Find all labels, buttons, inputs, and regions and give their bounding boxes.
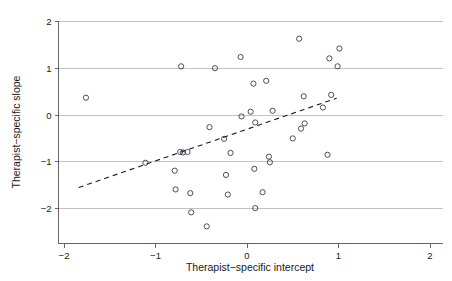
data-point xyxy=(266,154,271,159)
data-point xyxy=(267,160,272,165)
data-point xyxy=(253,206,258,211)
gridlines-group xyxy=(59,21,444,208)
data-point xyxy=(83,95,88,100)
y-tick-label--2: −2 xyxy=(41,203,52,214)
data-point xyxy=(223,172,228,177)
y-tick-label-2: 2 xyxy=(46,16,51,27)
y-tick-label--1: −1 xyxy=(41,156,52,167)
axes-group xyxy=(59,21,444,244)
data-point xyxy=(204,224,209,229)
regression-fit-line xyxy=(79,98,337,187)
data-point xyxy=(251,81,256,86)
data-points-group xyxy=(83,36,342,229)
data-point xyxy=(320,105,325,110)
x-tick-label--1: −1 xyxy=(150,250,161,261)
data-point xyxy=(337,46,342,51)
data-point xyxy=(290,136,295,141)
x-tick-group: −2−1012 xyxy=(59,244,433,261)
x-tick-label--2: −2 xyxy=(59,250,70,261)
data-point xyxy=(302,121,307,126)
data-point xyxy=(173,187,178,192)
data-point xyxy=(260,190,265,195)
data-point xyxy=(270,108,275,113)
x-tick-label-2: 2 xyxy=(427,250,432,261)
data-point xyxy=(298,126,303,131)
y-axis-label: Therapist−specific slope xyxy=(10,75,22,188)
data-point xyxy=(225,192,230,197)
data-point xyxy=(329,92,334,97)
x-tick-label-1: 1 xyxy=(336,250,341,261)
data-point xyxy=(143,160,148,165)
data-point xyxy=(239,114,244,119)
data-point xyxy=(248,109,253,114)
data-point xyxy=(172,168,177,173)
data-point xyxy=(301,94,306,99)
scatter-plot-figure: −2−1012 −2−1012 Therapist−specific inter… xyxy=(0,0,452,281)
data-point xyxy=(325,152,330,157)
y-tick-group: −2−1012 xyxy=(41,16,59,214)
data-point xyxy=(189,210,194,215)
data-point xyxy=(297,36,302,41)
y-tick-label-1: 1 xyxy=(46,63,51,74)
plot-canvas: −2−1012 −2−1012 Therapist−specific inter… xyxy=(0,0,452,281)
data-point xyxy=(264,78,269,83)
x-tick-label-0: 0 xyxy=(244,250,249,261)
data-point xyxy=(253,120,258,125)
data-point xyxy=(228,150,233,155)
data-point xyxy=(238,54,243,59)
data-point xyxy=(207,125,212,130)
y-tick-label-0: 0 xyxy=(46,110,51,121)
data-point xyxy=(327,56,332,61)
data-point xyxy=(252,166,257,171)
data-point xyxy=(188,191,193,196)
x-axis-label: Therapist−specific intercept xyxy=(186,261,314,273)
